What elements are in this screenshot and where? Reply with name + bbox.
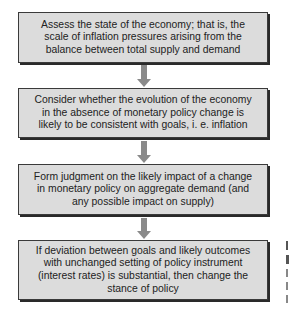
arrow-head (137, 155, 151, 163)
flow-step-text: Form judgment on the likely impact of a … (29, 171, 257, 209)
arrow-shaft (141, 141, 147, 156)
arrow-head (137, 231, 151, 239)
flow-step-text: Assess the state of the economy; that is… (29, 19, 257, 57)
flow-step-text: Consider whether the evolution of the ec… (29, 94, 257, 132)
text-fragment (286, 241, 288, 250)
flow-step-change-policy-stance: If deviation between goals and likely ou… (18, 240, 268, 300)
cropped-text-fragments (286, 241, 290, 308)
text-fragment (286, 255, 289, 264)
down-arrow-icon (137, 65, 151, 87)
flow-step-form-judgment: Form judgment on the likely impact of a … (18, 164, 268, 215)
text-fragment (286, 295, 288, 303)
down-arrow-icon (137, 141, 151, 163)
text-fragment (286, 282, 288, 290)
arrow-head (137, 79, 151, 87)
arrow-shaft (141, 218, 147, 232)
arrow-shaft (141, 65, 147, 80)
flow-step-assess-economy: Assess the state of the economy; that is… (18, 12, 268, 63)
flow-step-consider-evolution: Consider whether the evolution of the ec… (18, 88, 268, 138)
flow-step-text: If deviation between goals and likely ou… (29, 245, 257, 295)
text-fragment (286, 269, 288, 277)
down-arrow-icon (137, 218, 151, 239)
